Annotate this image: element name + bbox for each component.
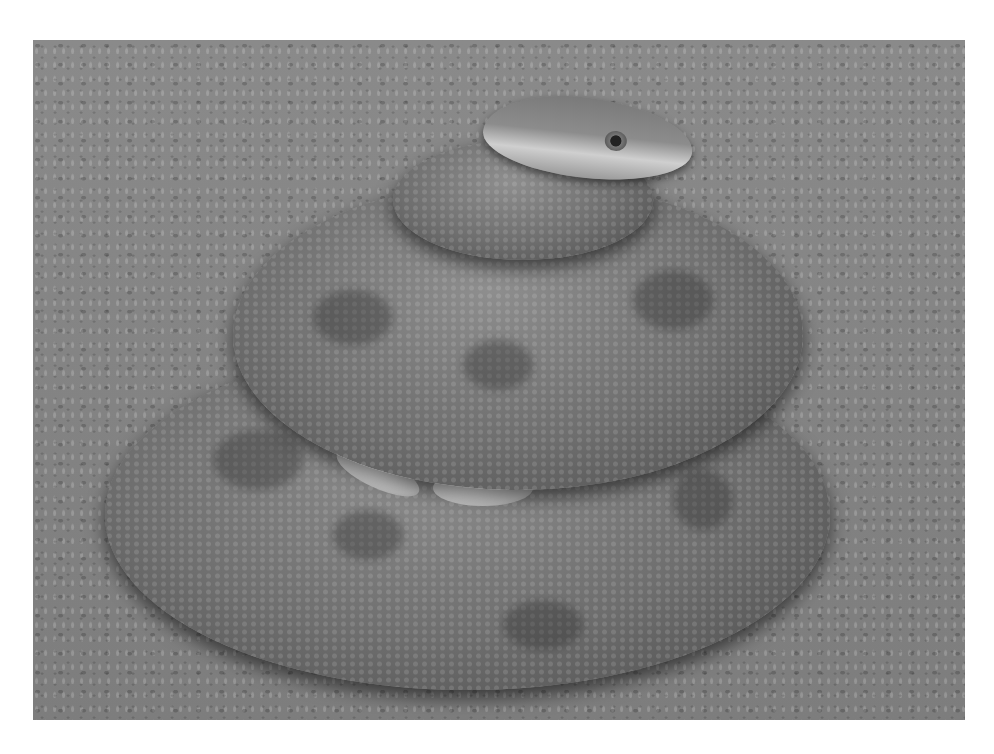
- middle-coil-pattern: [633, 270, 713, 330]
- coiled-python: [33, 40, 965, 720]
- middle-coil-pattern: [463, 340, 533, 390]
- lower-coil-pattern: [213, 430, 303, 490]
- lower-coil-pattern: [333, 510, 403, 560]
- lower-coil-pattern: [673, 470, 733, 530]
- python-photograph: [33, 40, 965, 720]
- lower-coil-pattern: [503, 600, 583, 650]
- snake-eye: [604, 130, 628, 152]
- middle-coil-pattern: [313, 290, 393, 345]
